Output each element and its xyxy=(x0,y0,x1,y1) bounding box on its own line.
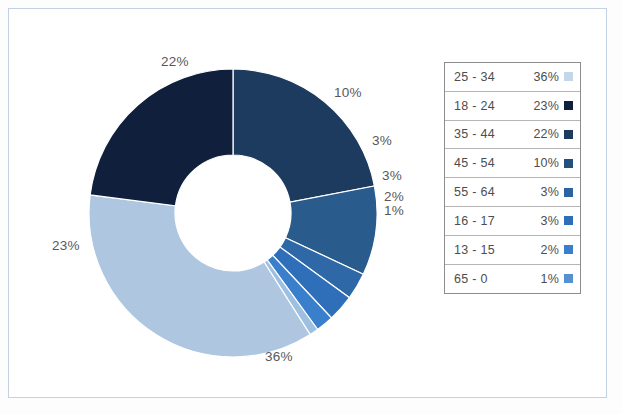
legend-item-value: 1% xyxy=(541,272,559,286)
legend-item-value: 2% xyxy=(541,243,559,257)
label-10: 10% xyxy=(334,85,362,100)
label-3a: 3% xyxy=(372,133,392,148)
legend-item-label: 18 - 24 xyxy=(454,99,495,113)
label-23: 23% xyxy=(52,238,80,253)
legend-row[interactable]: 13 - 152% xyxy=(445,236,580,265)
legend-item-value: 22% xyxy=(533,127,559,141)
legend-color-swatch-icon xyxy=(564,188,573,197)
legend-color-swatch-icon xyxy=(564,101,573,110)
label-1: 1% xyxy=(384,203,404,218)
legend-item-value: 23% xyxy=(533,99,559,113)
legend-item-value: 10% xyxy=(533,156,559,170)
legend-item-label: 65 - 0 xyxy=(454,272,488,286)
legend-row[interactable]: 18 - 2423% xyxy=(445,92,580,121)
legend-row[interactable]: 25 - 3436% xyxy=(445,63,580,92)
legend-color-swatch-icon xyxy=(564,245,573,254)
chart-canvas: 22%10%3%3%2%1%23%36% 25 - 3436%18 - 2423… xyxy=(0,0,623,414)
legend-item-value: 3% xyxy=(541,214,559,228)
legend-item-value: 36% xyxy=(533,70,559,84)
legend-row[interactable]: 55 - 643% xyxy=(445,178,580,207)
donut-chart-area: 22%10%3%3%2%1%23%36% xyxy=(0,0,430,414)
donut-chart-svg xyxy=(0,0,430,414)
legend-item-value: 3% xyxy=(541,185,559,199)
legend-row[interactable]: 65 - 01% xyxy=(445,265,580,294)
legend-row[interactable]: 45 - 5410% xyxy=(445,149,580,178)
legend-color-swatch-icon xyxy=(564,159,573,168)
donut-slice-18-24[interactable] xyxy=(90,69,233,206)
chart-legend: 25 - 3436%18 - 2423%35 - 4422%45 - 5410%… xyxy=(444,62,581,294)
legend-color-swatch-icon xyxy=(564,130,573,139)
legend-color-swatch-icon xyxy=(564,72,573,81)
label-22: 22% xyxy=(161,54,189,69)
legend-item-label: 16 - 17 xyxy=(454,214,495,228)
legend-item-label: 25 - 34 xyxy=(454,70,495,84)
legend-item-label: 45 - 54 xyxy=(454,156,495,170)
legend-item-label: 35 - 44 xyxy=(454,127,495,141)
label-36: 36% xyxy=(265,349,293,364)
label-3b: 3% xyxy=(382,168,402,183)
legend-item-label: 13 - 15 xyxy=(454,243,495,257)
legend-color-swatch-icon xyxy=(564,216,573,225)
legend-row[interactable]: 35 - 4422% xyxy=(445,121,580,150)
legend-color-swatch-icon xyxy=(564,274,573,283)
label-2: 2% xyxy=(384,189,404,204)
legend-item-label: 55 - 64 xyxy=(454,185,495,199)
legend-row[interactable]: 16 - 173% xyxy=(445,207,580,236)
